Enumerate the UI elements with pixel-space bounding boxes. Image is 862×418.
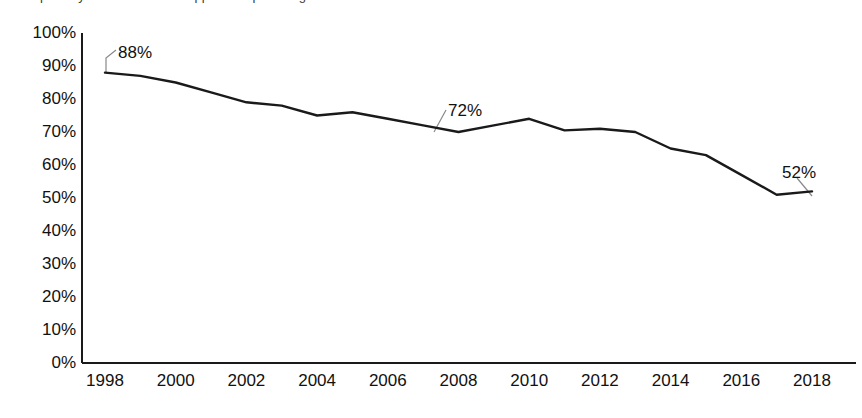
data-label-72: 72% bbox=[448, 102, 482, 119]
data-label-88: 88% bbox=[118, 44, 152, 61]
chart-plot-area bbox=[0, 0, 862, 418]
chart-axes bbox=[82, 33, 856, 363]
annotation-leader-lines bbox=[106, 50, 812, 196]
line-chart: partially visible text line cropped at t… bbox=[0, 0, 862, 418]
data-series-line bbox=[105, 73, 812, 195]
data-label-52: 52% bbox=[782, 164, 816, 181]
leader-line-88 bbox=[106, 50, 116, 73]
